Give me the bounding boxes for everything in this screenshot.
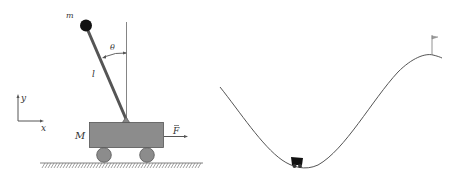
cart-mass-label: M xyxy=(74,130,86,141)
cart-body xyxy=(90,123,164,148)
pendulum-mass xyxy=(80,20,92,32)
cart-wheel-right xyxy=(140,148,155,163)
force-label: F xyxy=(172,126,180,136)
cart-wheel-left xyxy=(97,148,112,163)
cartpole-diagram: y x θ m l M F xyxy=(17,11,204,168)
axis-y-label: y xyxy=(20,93,27,103)
ground-hatch xyxy=(40,163,203,168)
angle-arrowhead-icon xyxy=(102,55,106,59)
flag-icon xyxy=(432,35,438,55)
diagram-canvas: y x θ m l M F xyxy=(0,0,452,184)
axis-x-label: x xyxy=(41,123,46,133)
mountain-curve xyxy=(220,55,442,168)
angle-label: θ xyxy=(110,43,115,52)
angle-arc-icon xyxy=(104,53,126,57)
pivot-icon xyxy=(122,117,130,123)
mass-label: m xyxy=(66,11,74,20)
length-label: l xyxy=(92,69,95,79)
force-arrowhead-icon xyxy=(184,135,188,138)
diagram-svg: y x θ m l M F xyxy=(0,0,452,184)
car-icon xyxy=(291,157,303,168)
mountain-car-diagram xyxy=(220,35,442,168)
